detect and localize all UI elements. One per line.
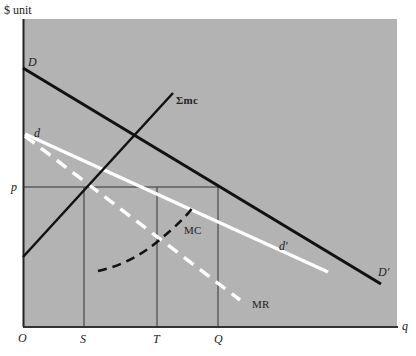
- x-axis-label: q: [402, 320, 408, 332]
- economics-diagram: $ unit q O D D′ d d′ Σmc MC MR p S T Q: [0, 0, 416, 356]
- t-label: T: [153, 333, 160, 345]
- D-label: D: [28, 56, 37, 68]
- origin-label: O: [18, 332, 27, 344]
- s-label: S: [80, 333, 86, 345]
- mr-label: MR: [252, 299, 270, 310]
- price-label: p: [11, 181, 17, 193]
- mc-label: MC: [184, 225, 202, 236]
- d-label: d: [34, 127, 40, 139]
- q-label: Q: [214, 333, 223, 345]
- sum-mc-label: Σmc: [176, 95, 198, 106]
- d-prime-label: d′: [279, 240, 288, 252]
- y-axis-label: $ unit: [4, 4, 32, 16]
- diagram-canvas: [0, 0, 416, 356]
- plot-area: [23, 19, 397, 327]
- D-prime-label: D′: [378, 266, 389, 278]
